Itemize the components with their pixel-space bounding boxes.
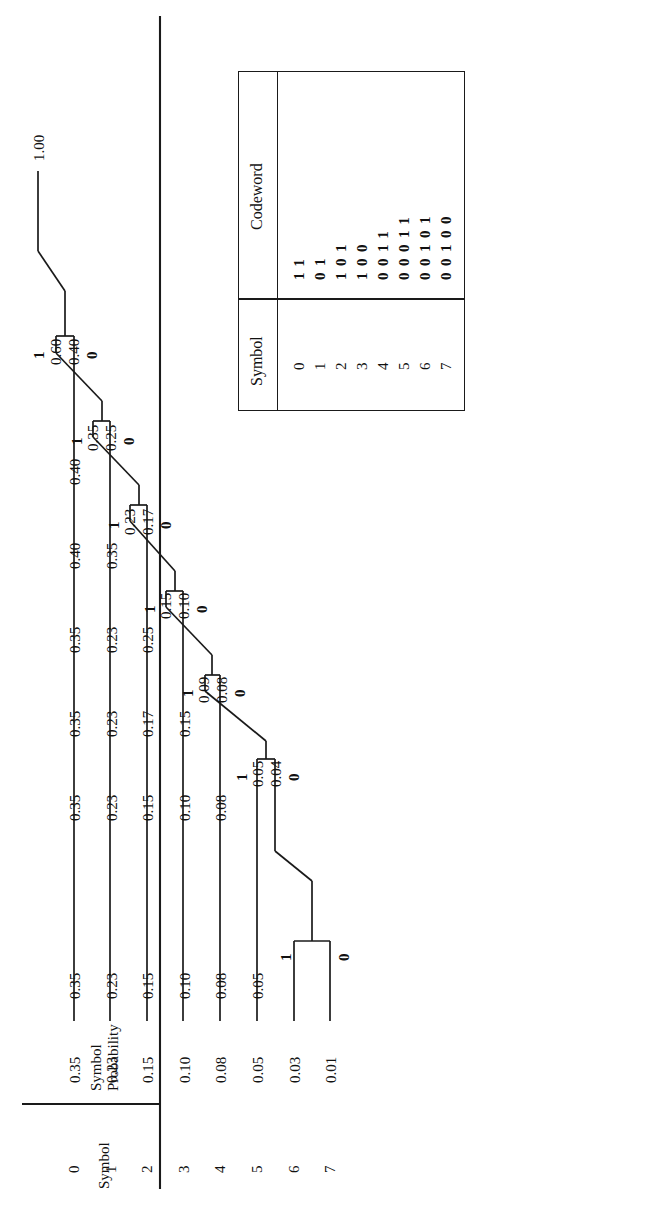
symbol-label-3: 3 xyxy=(177,1166,192,1174)
codeword-row-code-7: 00100 xyxy=(438,210,455,280)
stage2-value-1: 0.23 xyxy=(104,795,121,821)
stage6-branch-zero: 0 xyxy=(121,438,138,446)
stage5-branch-one: 1 xyxy=(106,522,123,530)
symbol-label-1: 1 xyxy=(104,1166,119,1174)
stage1-value-5: 0.05 xyxy=(250,973,267,999)
root-total-value: 1.00 xyxy=(31,135,48,161)
stage4-value-1: 0.23 xyxy=(104,627,121,653)
symbol-label-5: 5 xyxy=(250,1166,265,1174)
stage2-value-4: 0.08 xyxy=(213,795,230,821)
codeword-row-symbol-4: 4 xyxy=(375,363,392,371)
probability-5: 0.05 xyxy=(250,1057,267,1083)
codeword-row-symbol-0: 0 xyxy=(291,363,308,371)
stage6-branch-one: 1 xyxy=(69,438,86,446)
stage7-merge-hi: 0.60 xyxy=(48,339,65,365)
stage4-branch-zero: 0 xyxy=(194,606,211,614)
stage3-value-0: 0.35 xyxy=(67,711,84,737)
stage1-value-3: 0.10 xyxy=(177,973,194,999)
stage4-branch-one: 1 xyxy=(142,606,159,614)
stage6-value-0: 0.40 xyxy=(67,459,84,485)
stage1-value-1: 0.23 xyxy=(104,973,121,999)
codeword-table-header-codeword: Codeword xyxy=(248,163,266,230)
stage3-value-3: 0.15 xyxy=(177,711,194,737)
codeword-row-symbol-7: 7 xyxy=(438,363,455,371)
stage7-branch-one: 1 xyxy=(31,352,48,360)
probability-6: 0.03 xyxy=(287,1057,304,1083)
stage2-merge-lo: 0.04 xyxy=(268,761,285,787)
stage2-value-2: 0.15 xyxy=(140,795,157,821)
stage7-merge-lo: 0.40 xyxy=(66,339,83,365)
codeword-row-code-4: 0011 xyxy=(375,225,392,280)
stage2-value-0: 0.35 xyxy=(67,795,84,821)
probability-7: 0.01 xyxy=(323,1057,340,1083)
symbol-label-0: 0 xyxy=(67,1166,82,1174)
codeword-table: Symbol Codeword 0 11 1 01 2 101 3 100 4 … xyxy=(238,71,465,411)
stage4-value-0: 0.35 xyxy=(67,627,84,653)
codeword-row-symbol-5: 5 xyxy=(396,363,413,371)
stage3-branch-one: 1 xyxy=(180,690,197,698)
stage3-merge-hi: 0.09 xyxy=(196,677,213,703)
probability-column-header-line1: Symbol xyxy=(88,1044,105,1091)
codeword-row-code-0: 11 xyxy=(291,253,308,280)
stage2-value-3: 0.10 xyxy=(177,795,194,821)
probability-3: 0.10 xyxy=(177,1057,194,1083)
stage4-value-2: 0.25 xyxy=(140,627,157,653)
codeword-row-code-2: 101 xyxy=(333,238,350,280)
stage5-merge-hi: 0.23 xyxy=(122,509,139,535)
stage5-value-1: 0.35 xyxy=(104,543,121,569)
stage7-branch-zero: 0 xyxy=(84,352,101,360)
stage1-value-2: 0.15 xyxy=(140,973,157,999)
stage1-branch-zero: 0 xyxy=(336,954,353,962)
symbol-label-6: 6 xyxy=(287,1166,302,1174)
stage6-merge-hi: 0.35 xyxy=(85,425,102,451)
stage2-branch-zero: 0 xyxy=(286,774,303,782)
probability-2: 0.15 xyxy=(140,1057,157,1083)
codeword-row-code-1: 01 xyxy=(312,252,329,280)
codeword-row-code-3: 100 xyxy=(354,238,371,280)
stage2-merge-hi: 0.05 xyxy=(250,761,267,787)
codeword-row-symbol-3: 3 xyxy=(354,363,371,371)
stage1-value-0: 0.35 xyxy=(67,973,84,999)
symbol-label-2: 2 xyxy=(140,1166,155,1174)
stage1-branch-one: 1 xyxy=(278,954,295,962)
stage3-value-2: 0.17 xyxy=(140,711,157,737)
symbol-label-7: 7 xyxy=(323,1166,338,1174)
codeword-row-code-6: 00101 xyxy=(417,210,434,280)
stage6-merge-lo: 0.25 xyxy=(103,425,120,451)
figure-canvas: Symbol Symbol Probability 0 1 2 3 4 5 6 … xyxy=(0,0,649,1211)
huffman-diagram: Symbol Symbol Probability 0 1 2 3 4 5 6 … xyxy=(0,0,649,1211)
codeword-row-symbol-1: 1 xyxy=(312,363,329,371)
stage5-branch-zero: 0 xyxy=(158,522,175,530)
stage5-merge-lo: 0.17 xyxy=(140,509,157,535)
codeword-row-code-5: 00011 xyxy=(396,211,413,280)
probability-4: 0.08 xyxy=(213,1057,230,1083)
stage1-value-4: 0.08 xyxy=(213,973,230,999)
stage3-merge-lo: 0.08 xyxy=(214,677,231,703)
codeword-row-symbol-6: 6 xyxy=(417,363,434,371)
probability-1: 0.23 xyxy=(104,1057,121,1083)
codeword-row-symbol-2: 2 xyxy=(333,363,350,371)
stage2-branch-one: 1 xyxy=(234,774,251,782)
stage4-merge-hi: 0.15 xyxy=(158,593,175,619)
stage5-value-0: 0.40 xyxy=(67,543,84,569)
stage3-branch-zero: 0 xyxy=(232,690,249,698)
stage4-merge-lo: 0.10 xyxy=(176,593,193,619)
codeword-table-header-symbol: Symbol xyxy=(248,336,266,386)
stage3-value-1: 0.23 xyxy=(104,711,121,737)
probability-0: 0.35 xyxy=(67,1057,84,1083)
symbol-label-4: 4 xyxy=(213,1166,228,1174)
